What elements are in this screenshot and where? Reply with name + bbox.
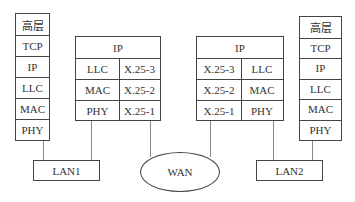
router-right-phy: PHY: [241, 100, 283, 121]
router-left-x25-2: X.25-2: [119, 79, 160, 100]
router-right-mac: MAC: [241, 79, 283, 100]
host-right-layer-phy: PHY: [300, 120, 341, 141]
router-right-x25-2: X.25-2: [197, 79, 241, 100]
host-right-layer-llc: LLC: [300, 79, 341, 100]
link-router-left-lan1: [91, 121, 92, 160]
router-left-llc: LLC: [76, 58, 119, 79]
host-left-layer-mac: MAC: [16, 98, 49, 119]
host-right-layer-ip: IP: [300, 58, 341, 79]
lan1-box: LAN1: [33, 160, 100, 181]
router-left-x25-1: X.25-1: [119, 100, 160, 121]
host-left-layer-llc: LLC: [16, 77, 49, 98]
host-left-layer-phy: PHY: [16, 119, 49, 140]
host-right-layer-tcp: TCP: [300, 38, 341, 59]
router-right-x25-3: X.25-3: [197, 58, 241, 79]
link-router-left-wan: [150, 121, 151, 157]
router-right-ip: IP: [197, 37, 283, 58]
link-host-right-lan2: [312, 141, 313, 160]
host-right-stack: 高层 TCP IP LLC MAC PHY: [299, 16, 342, 141]
host-left-layer-ip: IP: [16, 56, 49, 77]
router-right-x25-1: X.25-1: [197, 100, 241, 121]
link-host-left-lan1: [43, 141, 44, 160]
host-left-stack: 高层 TCP IP LLC MAC PHY: [15, 13, 50, 141]
wan-ellipse: WAN: [140, 152, 220, 192]
link-router-right-lan2: [273, 121, 274, 160]
router-left-ip: IP: [76, 37, 160, 58]
host-right-layer-upper: 高层: [300, 17, 341, 38]
router-right-stack: IP X.25-3 LLC X.25-2 MAC X.25-1 PHY: [196, 36, 284, 121]
router-left-mac: MAC: [76, 79, 119, 100]
router-right-llc: LLC: [241, 58, 283, 79]
router-left-x25-3: X.25-3: [119, 58, 160, 79]
host-right-layer-mac: MAC: [300, 99, 341, 120]
router-left-stack: IP LLC X.25-3 MAC X.25-2 PHY X.25-1: [75, 36, 161, 121]
router-left-phy: PHY: [76, 100, 119, 121]
host-left-layer-tcp: TCP: [16, 35, 49, 56]
lan2-box: LAN2: [256, 160, 323, 181]
host-left-layer-upper: 高层: [16, 14, 49, 35]
link-router-right-wan: [210, 121, 211, 157]
